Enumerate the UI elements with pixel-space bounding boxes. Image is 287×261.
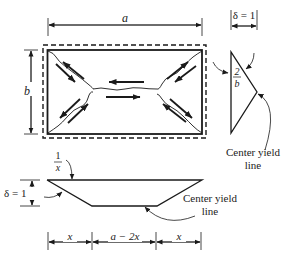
support-outline (43, 45, 206, 138)
segment-x-left: x (67, 230, 73, 242)
center-yield-line-label-long-2: line (202, 205, 219, 217)
dimension-b-label: b (24, 84, 30, 98)
dimension-a-label: a (122, 11, 128, 25)
segment-dimensions: x a − 2x x (48, 230, 201, 250)
rotation-numerator-long: 1 (56, 150, 61, 161)
plan-view: a b (24, 11, 206, 138)
center-yield-line-label-long: Center yield (183, 192, 238, 204)
yield-line-diagram: a b (0, 0, 287, 261)
deflection-label-long: δ = 1 (4, 187, 26, 199)
short-span-section: δ = 1 2 b Center yield line (213, 9, 281, 171)
rotation-denominator-long: x (55, 162, 61, 173)
slip-arrows (56, 62, 196, 123)
dimension-b: b (24, 50, 38, 134)
deflection-label-side: δ = 1 (233, 9, 255, 21)
long-span-section: 1 x δ = 1 Center yield line (4, 150, 238, 250)
rotation-numerator-side: 2 (235, 66, 240, 77)
deflection-triangle (231, 52, 257, 133)
segment-middle: a − 2x (111, 230, 140, 242)
deflection-trapezoid (47, 180, 202, 206)
segment-x-right: x (176, 230, 182, 242)
center-yield-line-label-side-2: line (245, 159, 262, 171)
center-yield-line-label-side: Center yield (226, 146, 281, 158)
rotation-denominator-side: b (235, 78, 240, 89)
dimension-a: a (48, 11, 202, 36)
